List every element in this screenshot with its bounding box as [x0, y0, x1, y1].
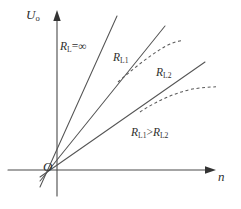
y-axis-label-symbol: U	[26, 7, 35, 22]
origin-label: O	[43, 160, 52, 173]
label-open-circuit-symbol: R	[60, 40, 67, 52]
label-load-2-subscript: L2	[163, 71, 171, 80]
label-load-1-symbol: R	[113, 51, 120, 63]
label-inequality-right-symbol: R	[153, 126, 160, 138]
output-voltage-vs-speed-diagram: Uo n O RL=∞ RL1 RL2 RL1>RL2	[0, 0, 241, 209]
x-axis-label: n	[218, 170, 225, 183]
y-axis-label-subscript: o	[35, 13, 39, 23]
label-inequality-left-symbol: R	[131, 126, 138, 138]
x-axis-arrowhead	[205, 166, 216, 173]
label-load-1-subscript: L1	[120, 56, 128, 65]
label-load-2-symbol: R	[156, 66, 163, 78]
y-axis-arrowhead	[53, 10, 60, 21]
label-load-1: RL1	[113, 52, 128, 64]
label-open-circuit-value: ∞	[78, 40, 86, 52]
label-inequality-right-subscript: L2	[160, 131, 168, 140]
label-open-circuit: RL=∞	[60, 41, 86, 53]
label-load-2: RL2	[156, 67, 171, 79]
y-axis-label: Uo	[26, 8, 40, 22]
label-inequality: RL1>RL2	[131, 127, 168, 139]
plot-canvas	[0, 0, 241, 209]
